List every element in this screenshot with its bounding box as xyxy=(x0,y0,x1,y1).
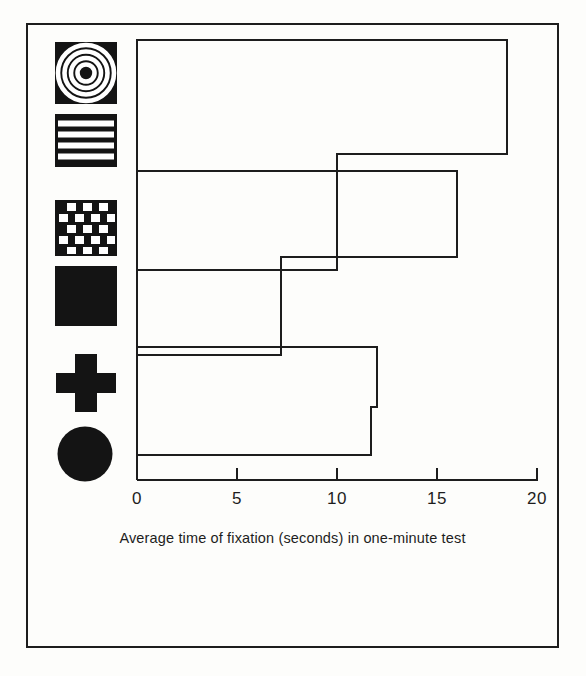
x-tick-label-15: 15 xyxy=(427,489,447,509)
plot-area: 0 5 10 15 20 Average time of fixation (s… xyxy=(28,25,557,646)
x-tick-label-20: 20 xyxy=(527,489,547,509)
bar-group-2 xyxy=(137,171,457,355)
x-tick-label-10: 10 xyxy=(327,489,347,509)
bar-chart-svg xyxy=(28,25,561,545)
bar-group-3 xyxy=(137,347,377,455)
figure-frame: 0 5 10 15 20 Average time of fixation (s… xyxy=(26,23,559,648)
figure-root: 0 5 10 15 20 Average time of fixation (s… xyxy=(0,0,586,676)
x-tick-label-0: 0 xyxy=(132,489,142,509)
x-tick-label-5: 5 xyxy=(232,489,242,509)
x-axis-caption: Average time of fixation (seconds) in on… xyxy=(28,530,557,546)
